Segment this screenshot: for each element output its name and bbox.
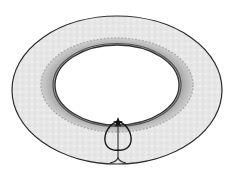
diagram-canvas [0,0,233,172]
inner-hole [55,45,179,125]
ring-diagram [0,0,233,172]
